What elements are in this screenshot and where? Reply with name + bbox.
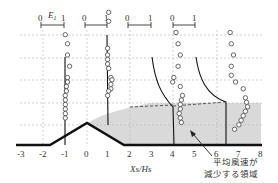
data-point — [244, 100, 248, 104]
data-point — [172, 75, 176, 79]
data-point — [245, 105, 249, 109]
data-point — [64, 84, 68, 88]
annotation-line2: 減少する領域 — [204, 169, 258, 179]
data-point — [107, 19, 111, 23]
data-point — [178, 116, 182, 120]
data-point — [105, 62, 109, 66]
data-point — [107, 89, 111, 93]
data-point — [237, 123, 241, 127]
data-point — [105, 46, 109, 50]
data-point — [241, 114, 245, 118]
svg-text:0: 0 — [38, 13, 43, 23]
data-point — [180, 93, 184, 97]
svg-text:0: 0 — [82, 13, 87, 23]
data-point — [176, 42, 180, 46]
data-point — [232, 127, 236, 131]
data-point — [107, 10, 111, 14]
svg-text:3: 3 — [149, 149, 154, 159]
annotation-line1: 平均風速が — [213, 157, 258, 167]
data-point — [174, 30, 178, 34]
svg-text:-2: -2 — [39, 149, 47, 159]
data-point — [176, 64, 180, 68]
svg-text:0: 0 — [84, 149, 89, 159]
x-axis-label: Xs/Hs — [129, 164, 152, 174]
data-point — [64, 89, 68, 93]
data-point — [229, 73, 233, 77]
data-point — [179, 120, 183, 124]
data-point — [239, 118, 243, 122]
data-point — [65, 42, 69, 46]
data-point — [178, 107, 182, 111]
data-point — [178, 102, 182, 106]
data-point — [231, 53, 235, 57]
svg-text:-1: -1 — [61, 149, 69, 159]
data-point — [67, 64, 71, 68]
data-point — [109, 82, 113, 86]
data-point — [63, 102, 67, 106]
data-point — [178, 84, 182, 88]
data-point — [65, 53, 69, 57]
data-point — [171, 80, 175, 84]
svg-text:-3: -3 — [17, 149, 25, 159]
data-point — [229, 64, 233, 68]
data-point — [177, 111, 181, 115]
svg-text:1: 1 — [192, 13, 197, 23]
data-point — [63, 93, 67, 97]
svg-text:0: 0 — [125, 13, 130, 23]
svg-text:8: 8 — [258, 149, 263, 159]
data-point — [63, 33, 67, 37]
data-point — [241, 87, 245, 91]
scale-bar-labels: 0 1 0 1 0 1 0 1 E1 — [38, 10, 197, 23]
data-point — [63, 98, 67, 102]
data-point — [63, 116, 67, 120]
data-point — [105, 93, 109, 97]
chart: 0 1 0 1 0 1 0 1 E1 -3 -2 -1 0 1 2 3 4 5 … — [0, 0, 278, 183]
svg-text:2: 2 — [127, 149, 132, 159]
svg-text:4: 4 — [170, 149, 175, 159]
data-point — [243, 109, 247, 113]
data-point — [65, 75, 69, 79]
data-point — [105, 53, 109, 57]
data-point — [233, 80, 237, 84]
svg-text:5: 5 — [192, 149, 197, 159]
svg-text:0: 0 — [170, 13, 175, 23]
data-point — [107, 66, 111, 70]
data-point — [63, 107, 67, 111]
scale-bar-label: E1 — [47, 10, 57, 21]
data-point — [229, 42, 233, 46]
data-point — [179, 98, 183, 102]
data-point — [105, 57, 109, 61]
svg-text:1: 1 — [148, 13, 153, 23]
data-point — [110, 78, 114, 82]
data-point — [178, 53, 182, 57]
data-point — [63, 111, 67, 115]
data-point — [228, 30, 232, 34]
svg-text:1: 1 — [61, 13, 66, 23]
data-point — [243, 96, 247, 100]
data-point — [65, 80, 69, 84]
svg-text:1: 1 — [105, 149, 110, 159]
